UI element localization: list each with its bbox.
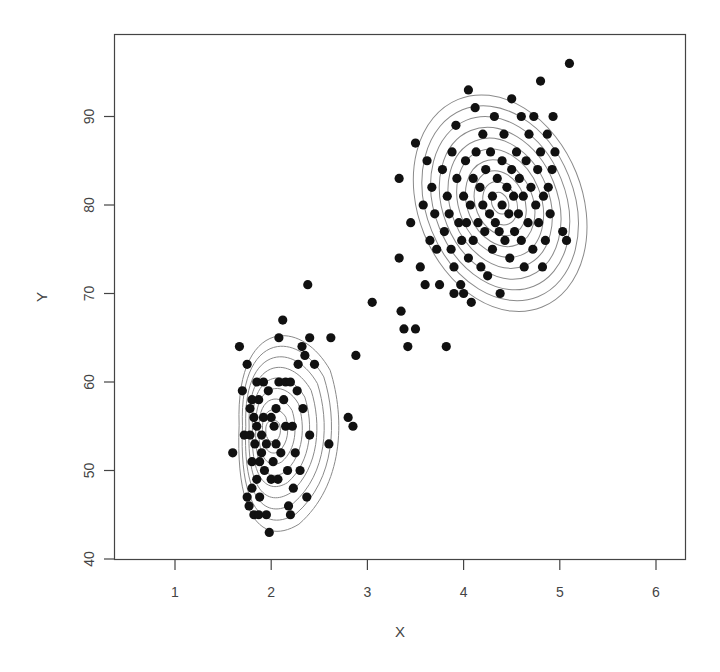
y-axis-title: Y (33, 292, 50, 302)
data-point (486, 147, 495, 156)
data-point (243, 360, 252, 369)
data-point (430, 209, 439, 218)
data-point (457, 236, 466, 245)
data-point (515, 174, 524, 183)
data-point (447, 147, 456, 156)
data-point (348, 422, 357, 431)
data-point (305, 333, 314, 342)
data-point (534, 218, 543, 227)
y-tick-label: 90 (81, 109, 97, 125)
data-point (247, 484, 256, 493)
data-point (286, 510, 295, 519)
data-point (250, 439, 259, 448)
data-point (257, 431, 266, 440)
data-point (459, 289, 468, 298)
data-point (519, 192, 528, 201)
data-point (483, 271, 492, 280)
data-point (517, 236, 526, 245)
x-tick-label: 4 (460, 584, 468, 600)
data-point (289, 484, 298, 493)
data-point (243, 492, 252, 501)
data-point (531, 200, 540, 209)
data-point (500, 236, 509, 245)
data-point (244, 501, 253, 510)
data-point (259, 377, 268, 386)
data-point (419, 200, 428, 209)
data-point (512, 147, 521, 156)
data-point (271, 439, 280, 448)
data-point (526, 183, 535, 192)
data-point (449, 262, 458, 271)
data-point (462, 218, 471, 227)
data-point (283, 466, 292, 475)
data-point (324, 439, 333, 448)
data-point (395, 174, 404, 183)
data-point (288, 422, 297, 431)
data-point (452, 174, 461, 183)
data-point (443, 192, 452, 201)
x-tick-label: 3 (364, 584, 372, 600)
data-point (278, 315, 287, 324)
data-point (245, 404, 254, 413)
y-tick-label: 50 (81, 463, 97, 479)
data-point (473, 218, 482, 227)
data-point (399, 324, 408, 333)
data-point (274, 333, 283, 342)
data-point (528, 245, 537, 254)
data-point (395, 254, 404, 263)
data-point (523, 218, 532, 227)
data-point (435, 280, 444, 289)
data-point (252, 422, 261, 431)
data-point (497, 156, 506, 165)
data-point (548, 165, 557, 174)
data-point (257, 448, 266, 457)
y-tick-label: 40 (81, 551, 97, 567)
data-point (351, 351, 360, 360)
data-point (488, 245, 497, 254)
data-point (411, 138, 420, 147)
data-point (300, 351, 309, 360)
data-point (461, 156, 470, 165)
data-point (529, 112, 538, 121)
data-point (533, 165, 542, 174)
data-point (475, 183, 484, 192)
data-point (396, 307, 405, 316)
data-point (265, 528, 274, 537)
data-point (485, 209, 494, 218)
data-point (510, 227, 519, 236)
data-point (550, 147, 559, 156)
data-point (228, 448, 237, 457)
data-point (255, 492, 264, 501)
data-point (425, 236, 434, 245)
data-point (507, 94, 516, 103)
data-point (472, 147, 481, 156)
data-point (295, 466, 304, 475)
x-tick-label: 6 (652, 584, 660, 600)
data-point (469, 174, 478, 183)
data-point (536, 77, 545, 86)
data-point (235, 342, 244, 351)
data-point (269, 422, 278, 431)
data-point (504, 209, 513, 218)
data-point (562, 236, 571, 245)
data-point (464, 254, 473, 263)
data-point (478, 130, 487, 139)
data-point (543, 130, 552, 139)
data-point (427, 183, 436, 192)
data-point (456, 280, 465, 289)
y-tick-label: 80 (81, 197, 97, 213)
data-point (406, 218, 415, 227)
data-point (466, 200, 475, 209)
data-point (262, 439, 271, 448)
data-point (302, 492, 311, 501)
data-point (464, 85, 473, 94)
data-point (469, 236, 478, 245)
data-point (476, 262, 485, 271)
x-tick-label: 1 (171, 584, 179, 600)
data-point (488, 192, 497, 201)
data-point (459, 192, 468, 201)
data-point (490, 112, 499, 121)
data-point (262, 510, 271, 519)
data-point (368, 298, 377, 307)
y-tick-label: 60 (81, 374, 97, 390)
